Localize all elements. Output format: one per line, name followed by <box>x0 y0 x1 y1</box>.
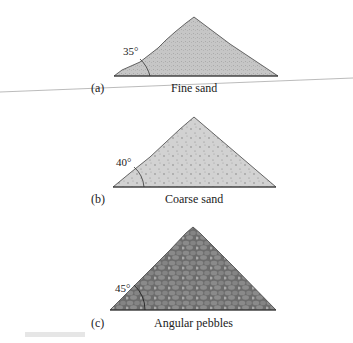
material-label-b: Coarse sand <box>165 192 223 207</box>
panel-letter-c: (c) <box>91 316 104 331</box>
pile-fine-sand <box>114 17 278 76</box>
angle-of-repose-diagram <box>0 0 353 343</box>
angle-label-b: 40° <box>116 156 131 168</box>
faded-caption <box>25 332 85 337</box>
panel-letter-b: (b) <box>91 192 105 207</box>
pile-angular-pebbles <box>110 227 276 310</box>
panel-letter-a: (a) <box>91 81 104 96</box>
angle-label-a: 35° <box>123 45 138 57</box>
material-label-a: Fine sand <box>171 81 217 96</box>
material-label-c: Angular pebbles <box>154 316 233 331</box>
angle-label-c: 45° <box>115 282 130 294</box>
pile-coarse-sand <box>113 117 276 187</box>
